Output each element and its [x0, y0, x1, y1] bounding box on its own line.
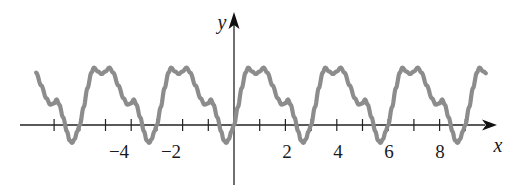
x-axis-label: x	[493, 134, 503, 156]
function-curve	[36, 68, 486, 143]
y-axis-label: y	[216, 11, 227, 34]
tick-label-2: 2	[282, 141, 292, 162]
tick-label-8: 8	[435, 141, 445, 162]
chart: −4 −2 2 4 6 8 x y	[0, 0, 528, 190]
x-axis	[20, 120, 497, 131]
tick-label-6: 6	[384, 141, 394, 162]
tick-label-neg4: −4	[109, 141, 130, 162]
tick-label-neg2: −2	[161, 141, 181, 162]
tick-label-4: 4	[333, 141, 343, 162]
